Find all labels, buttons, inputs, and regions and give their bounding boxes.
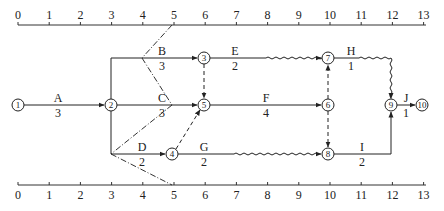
tick-label: 7 (233, 8, 239, 22)
activity-duration: 1 (348, 59, 354, 73)
activity-B: B3 (158, 44, 166, 73)
activity-name: E (231, 44, 238, 58)
svg-text:7: 7 (326, 53, 331, 63)
svg-text:2: 2 (109, 100, 114, 110)
tick-label: 13 (418, 8, 430, 22)
node-8: 8 (322, 148, 334, 160)
svg-text:3: 3 (202, 53, 207, 63)
tick-label: 9 (296, 188, 302, 202)
tick-label: 3 (109, 8, 115, 22)
activity-name: D (138, 140, 147, 154)
node-10: 10 (416, 99, 428, 111)
activity-duration: 2 (139, 155, 145, 169)
activity-arrows (24, 57, 415, 155)
dummy-4-5 (176, 110, 200, 149)
tick-label: 6 (202, 188, 208, 202)
activity-name: G (200, 140, 209, 154)
activity-duration: 1 (403, 106, 409, 120)
tick-label: 0 (15, 188, 21, 202)
activity-name: H (347, 44, 356, 58)
tick-label: 9 (296, 8, 302, 22)
node-4: 4 (166, 148, 178, 160)
node-7: 7 (322, 52, 334, 64)
tick-label: 1 (46, 8, 52, 22)
activity-duration: 3 (159, 59, 165, 73)
arrow-B (111, 58, 197, 99)
nodes: 12345678910 (12, 52, 428, 160)
node-3: 3 (198, 52, 210, 64)
activity-name: A (54, 91, 63, 105)
tick-label: 6 (202, 8, 208, 22)
tick-label: 10 (324, 8, 336, 22)
free-float-G (234, 153, 318, 155)
tick-label: 12 (386, 8, 398, 22)
free-float-H (359, 57, 391, 59)
tick-label: 11 (355, 188, 367, 202)
tick-label: 8 (265, 188, 271, 202)
tick-label: 13 (418, 188, 430, 202)
svg-text:8: 8 (326, 149, 331, 159)
activity-duration: 2 (201, 155, 207, 169)
bottom-time-axis: 012345678910111213 (15, 182, 430, 202)
activity-F: F4 (263, 91, 270, 120)
svg-text:1: 1 (16, 100, 21, 110)
activity-name: J (404, 91, 409, 105)
activity-name: B (158, 44, 166, 58)
node-2: 2 (105, 99, 117, 111)
tick-label: 2 (77, 8, 83, 22)
tick-label: 5 (171, 8, 177, 22)
activity-E: E2 (231, 44, 238, 73)
activity-duration: 2 (232, 59, 238, 73)
node-1: 1 (12, 99, 24, 111)
activity-duration: 3 (159, 106, 165, 120)
svg-text:10: 10 (418, 100, 428, 110)
tick-label: 4 (140, 8, 146, 22)
activity-C: C3 (158, 91, 166, 120)
activity-name: I (360, 140, 364, 154)
tick-label: 5 (171, 188, 177, 202)
tick-label: 7 (233, 188, 239, 202)
tick-label: 2 (77, 188, 83, 202)
activity-I: I2 (359, 140, 365, 169)
tick-label: 4 (140, 188, 146, 202)
activity-duration: 3 (55, 106, 61, 120)
tick-label: 8 (265, 8, 271, 22)
node-5: 5 (198, 99, 210, 111)
node-6: 6 (322, 99, 334, 111)
tick-label: 0 (15, 8, 21, 22)
tick-label: 3 (109, 188, 115, 202)
activity-J: J1 (403, 91, 409, 120)
activity-name: F (263, 91, 270, 105)
svg-text:5: 5 (202, 100, 207, 110)
activity-duration: 4 (263, 106, 269, 120)
svg-text:9: 9 (389, 100, 394, 110)
top-time-axis: 012345678910111213 (15, 8, 430, 25)
activity-duration: 2 (359, 155, 365, 169)
activity-name: C (158, 91, 166, 105)
free-float-E (266, 57, 322, 59)
svg-text:4: 4 (170, 149, 175, 159)
tick-label: 11 (355, 8, 367, 22)
tick-label: 12 (386, 188, 398, 202)
node-9: 9 (385, 99, 397, 111)
network-diagram: 012345678910111213 012345678910111213 (0, 0, 444, 211)
tick-label: 1 (46, 188, 52, 202)
tick-label: 10 (324, 188, 336, 202)
svg-text:6: 6 (326, 100, 331, 110)
